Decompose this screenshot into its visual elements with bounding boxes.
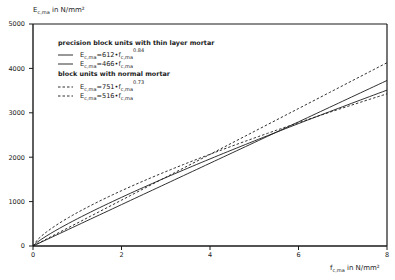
svg-text:Ec,ma=516•fc,ma: Ec,ma=516•fc,ma xyxy=(80,92,133,101)
curve-3 xyxy=(33,94,387,246)
x-tick-label: 4 xyxy=(208,251,212,259)
y-tick-label: 4000 xyxy=(8,65,25,73)
y-tick-label: 3000 xyxy=(8,109,25,117)
x-tick-label: 0 xyxy=(31,251,35,259)
legend-entry-normal-linear: Ec,ma=516•fc,ma xyxy=(58,92,133,101)
y-tick-label: 1000 xyxy=(8,198,25,206)
legend: precision block units with thin layer mo… xyxy=(58,39,215,101)
y-tick-label: 0 xyxy=(21,242,25,250)
chart: Ec,ma in N/mm² 010002000300040005000 024… xyxy=(0,0,395,280)
y-tick-label: 2000 xyxy=(8,154,25,162)
legend-heading-normal: block units with normal mortar xyxy=(58,70,171,78)
legend-entry-thin-power: Ec,ma=612•fc,ma0.84 xyxy=(58,47,144,60)
legend-entry-normal-power: Ec,ma=751•fc,ma0.73 xyxy=(58,79,144,92)
svg-text:Ec,ma=466•fc,ma: Ec,ma=466•fc,ma xyxy=(80,60,133,69)
legend-entry-thin-linear: Ec,ma=466•fc,ma xyxy=(58,60,133,69)
y-tick-label: 5000 xyxy=(8,20,25,28)
y-axis-title: Ec,ma in N/mm² xyxy=(33,6,85,15)
x-tick-label: 2 xyxy=(119,251,123,259)
x-axis-title: fc,ma in N/mm² xyxy=(330,264,380,273)
svg-text:Ec,ma=612•fc,ma0.84: Ec,ma=612•fc,ma0.84 xyxy=(80,47,144,60)
svg-text:Ec,ma=751•fc,ma0.73: Ec,ma=751•fc,ma0.73 xyxy=(80,79,144,92)
curve-1 xyxy=(33,90,387,246)
legend-heading-thin-layer: precision block units with thin layer mo… xyxy=(58,39,215,47)
y-axis-ticks: 010002000300040005000 xyxy=(8,20,33,250)
x-tick-label: 6 xyxy=(296,251,300,259)
x-tick-label: 8 xyxy=(385,251,389,259)
x-axis-ticks: 02468 xyxy=(31,246,389,259)
curve-2 xyxy=(33,80,387,246)
